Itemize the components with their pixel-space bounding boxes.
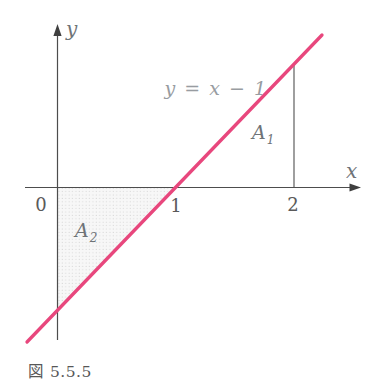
figure-canvas: y x y = x − 1 A1 A2 0 1 2 図 5.5.5 — [0, 0, 384, 385]
tick-label-0: 0 — [35, 194, 46, 215]
equation-label: y = x − 1 — [163, 77, 267, 99]
figure-caption: 図 5.5.5 — [28, 363, 92, 381]
region-a1-label-base: A — [250, 121, 266, 143]
tick-label-1: 1 — [170, 195, 181, 216]
x-axis-label: x — [346, 159, 357, 183]
region-a2-label-subscript: 2 — [89, 231, 98, 245]
y-axis-label: y — [65, 17, 78, 41]
region-a2-label-base: A — [73, 219, 89, 241]
region-a1-label-subscript: 1 — [267, 133, 275, 147]
figure-5-5-5-diagram: y x y = x − 1 A1 A2 0 1 2 図 5.5.5 — [0, 0, 384, 385]
tick-label-2: 2 — [287, 194, 298, 215]
